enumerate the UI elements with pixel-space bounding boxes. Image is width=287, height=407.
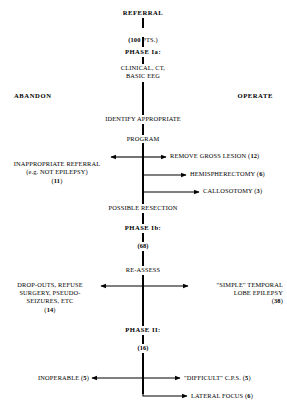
branch-drop-outs: DROP-OUTS, REFUSE SURGERY, PSEUDO- SEIZU… [0, 281, 102, 314]
node-total-points: (100 PTS.) [83, 28, 203, 44]
inappropriate-referral-line1: INAPPROPRIATE REFERRAL (e.g. NOT EPILEPS… [1, 160, 113, 185]
node-phase-1b: PHASE Ib: [83, 224, 203, 232]
total-points-unit: PTS.) [141, 36, 158, 43]
branch-callosotomy: CALLOSOTOMY (3) [203, 187, 287, 195]
branch-lateral-focus: LATERAL FOCUS (6) [191, 392, 287, 400]
branch-inappropriate-referral: INAPPROPRIATE REFERRAL (e.g. NOT EPILEPS… [1, 152, 113, 193]
header-abandon: ABANDON [14, 92, 104, 100]
flowchart-canvas: REFERRAL (100 PTS.) PHASE Ia: CLINICAL, … [0, 0, 287, 407]
node-program: PROGRAM [83, 135, 203, 143]
node-clinical-ct-basic-eeg: CLINICAL, CT, BASIC EEG [78, 64, 208, 80]
node-phase-1b-count: (68) [83, 242, 203, 250]
node-possible-resection: POSSIBLE RESECTION [68, 204, 218, 212]
branch-difficult-cps: "DIFFICULT" C.P.S. (5) [184, 374, 284, 382]
node-phase-2-count: (16) [83, 344, 203, 352]
node-phase-1a: PHASE Ia: [83, 48, 203, 56]
node-phase-2: PHASE II: [83, 326, 203, 334]
total-points-value: (100 [128, 36, 140, 43]
branch-simple-temporal-lobe-epilepsy: "SIMPLE" TEMPORAL LOBE EPILEPSY (38) [186, 281, 283, 306]
node-referral: REFERRAL [83, 9, 203, 17]
branch-inoperable: INOPERABLE (5) [5, 374, 89, 382]
branch-remove-gross-lesion: REMOVE GROSS LESION (12) [170, 152, 287, 160]
branch-hemispherectomy: HEMISPHERECTOMY (6) [190, 170, 287, 178]
node-re-assess: RE-ASSESS [83, 266, 203, 274]
header-operate: OPERATE [183, 92, 273, 100]
arrow-to-lateral-focus [143, 394, 187, 396]
node-identify-appropriate: IDENTIFY APPROPRIATE [68, 115, 218, 123]
